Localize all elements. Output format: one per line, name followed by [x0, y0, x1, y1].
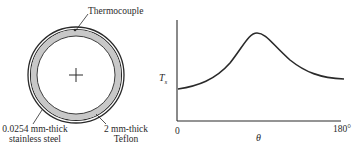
teflon-label-line2: Teflon	[98, 134, 154, 144]
teflon-label: 2 mm-thick Teflon	[98, 124, 154, 144]
x-axis-end-label: 180°	[333, 124, 351, 134]
teflon-label-line1: 2 mm-thick	[98, 124, 154, 134]
ts-vs-theta-graph	[177, 20, 344, 121]
steel-label-line2: stainless steel	[2, 134, 68, 144]
steel-leader	[33, 110, 42, 124]
steel-label: 0.0254 mm-thick stainless steel	[2, 124, 68, 144]
tube-cross-section	[28, 14, 124, 124]
y-axis-label-sub: s	[165, 78, 168, 86]
y-axis-label: Ts	[159, 73, 167, 87]
ts-curve	[178, 33, 344, 89]
thermocouple-label: Thermocouple	[88, 6, 143, 16]
thermocouple-dot	[74, 29, 77, 32]
x-axis-label: θ	[256, 133, 261, 143]
x-axis-start-label: 0	[175, 126, 180, 136]
steel-label-line1: 0.0254 mm-thick	[2, 124, 68, 134]
